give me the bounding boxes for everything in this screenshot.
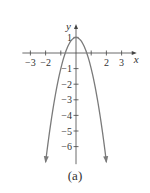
figure-caption: (a)	[0, 168, 150, 184]
y-tick-label: −6	[61, 141, 72, 152]
x-tick-label: 2	[104, 57, 109, 68]
curve-arrow-icon	[103, 156, 108, 163]
y-tick-label: −5	[61, 126, 72, 137]
y-tick-label: −3	[61, 94, 72, 105]
curve-arrow-icon	[44, 156, 49, 163]
x-tick-label: 3	[119, 57, 124, 68]
y-axis-arrow-icon	[74, 24, 78, 29]
x-tick-label: −3	[25, 57, 36, 68]
chart: xy−3−2231−1−2−3−4−5−6	[0, 0, 150, 193]
y-tick-label: −4	[61, 110, 72, 121]
x-axis-label: x	[133, 53, 139, 65]
x-tick-label: −2	[40, 57, 51, 68]
y-tick-label: −2	[61, 79, 72, 90]
y-axis-label: y	[65, 20, 71, 32]
y-tick-label: −1	[61, 63, 72, 74]
